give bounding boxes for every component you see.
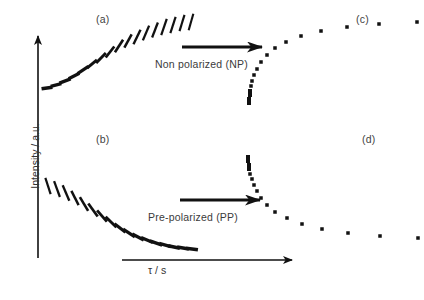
data-point-d-3: [247, 167, 251, 171]
panel-label-c: (c): [356, 13, 369, 25]
signal-stroke-b-3: [71, 191, 78, 205]
data-point-d-6: [252, 183, 256, 187]
figure-canvas: Intensity / a.u. τ / s Non polarized (NP…: [0, 0, 424, 300]
panel-c-data-points: [247, 20, 419, 105]
signal-stroke-a-14: [170, 17, 175, 33]
data-point-d-16: [416, 236, 420, 240]
data-point-d-14: [346, 231, 350, 235]
x-axis-label: τ / s: [148, 264, 166, 276]
data-point-c-6: [252, 73, 256, 77]
annotation-pre-polarized-label: Pre-polarized (PP): [148, 211, 238, 223]
data-point-d-2: [247, 163, 251, 167]
data-point-d-11: [285, 216, 289, 220]
data-point-d-9: [265, 203, 269, 207]
data-point-c-3: [248, 89, 252, 93]
data-point-c-9: [265, 53, 269, 57]
signal-stroke-b-1: [54, 181, 60, 197]
panel-d-data-points: [246, 155, 420, 240]
data-point-c-1: [247, 97, 251, 101]
panel-label-d: (d): [362, 133, 375, 145]
data-point-c-0: [247, 101, 251, 105]
panel-label-a: (a): [96, 13, 109, 25]
signal-stroke-a-16: [189, 14, 194, 30]
y-axis-label: Intensity / a.u.: [29, 96, 41, 216]
annotation-non-polarized-label: Non polarized (NP): [155, 58, 248, 70]
signal-stroke-a-5: [87, 60, 97, 68]
signal-stroke-a-13: [161, 19, 167, 35]
data-point-d-4: [248, 172, 252, 176]
signal-stroke-b-4: [80, 197, 88, 211]
signal-stroke-a-7: [106, 46, 115, 57]
signal-stroke-b-6: [97, 210, 107, 221]
data-point-c-15: [377, 22, 381, 26]
signal-stroke-b-16: [186, 248, 198, 250]
signal-stroke-a-6: [96, 53, 106, 63]
signal-stroke-a-8: [115, 40, 123, 53]
data-point-d-15: [378, 234, 382, 238]
data-point-c-10: [273, 46, 277, 50]
data-point-c-11: [284, 40, 288, 44]
data-point-c-5: [250, 79, 254, 83]
data-point-c-4: [249, 84, 253, 88]
signal-stroke-b-5: [88, 204, 97, 217]
data-point-d-5: [250, 177, 254, 181]
data-point-d-12: [300, 222, 304, 226]
signal-stroke-a-11: [143, 26, 149, 41]
data-point-c-14: [345, 25, 349, 29]
signal-stroke-a-2: [59, 79, 70, 83]
data-point-d-1: [246, 159, 250, 163]
data-point-c-16: [415, 20, 419, 24]
signal-stroke-a-12: [152, 23, 158, 38]
data-point-d-8: [259, 196, 263, 200]
data-point-c-13: [319, 29, 323, 33]
data-point-d-0: [246, 155, 250, 159]
data-point-c-12: [299, 34, 303, 38]
signal-stroke-a-10: [133, 30, 140, 44]
signal-stroke-b-2: [63, 185, 70, 201]
data-point-c-8: [259, 60, 263, 64]
data-point-d-10: [273, 210, 277, 214]
data-point-c-7: [255, 67, 259, 71]
figure-svg: [0, 0, 424, 300]
signal-stroke-a-9: [124, 34, 131, 47]
signal-stroke-b-0: [45, 178, 50, 194]
signal-stroke-a-0: [42, 87, 53, 89]
data-point-c-2: [248, 93, 252, 97]
signal-stroke-a-3: [69, 73, 80, 78]
data-point-d-7: [255, 189, 259, 193]
signal-stroke-a-15: [180, 15, 185, 31]
panel-a-signal-strokes: [42, 14, 194, 89]
data-point-d-13: [320, 227, 324, 231]
panel-label-b: (b): [96, 133, 109, 145]
